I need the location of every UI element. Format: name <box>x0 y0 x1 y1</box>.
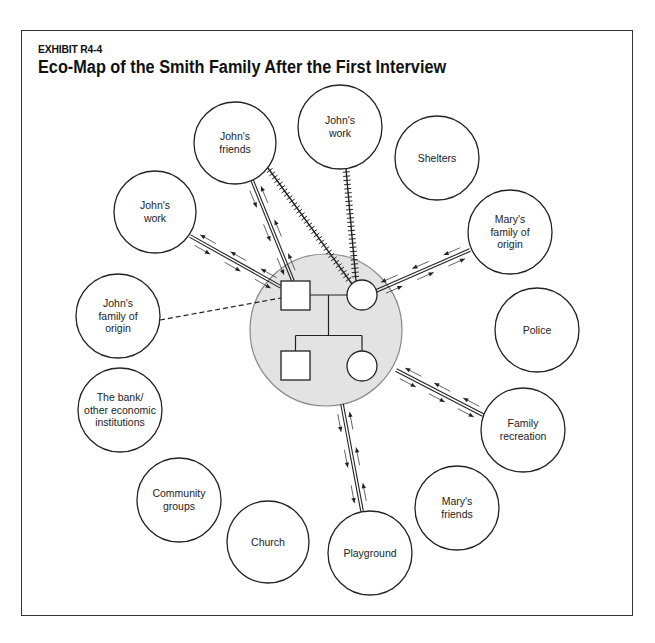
connection-johns-friends-to-father <box>250 180 295 282</box>
node-marys-family-of-origin: Mary'sfamily oforigin <box>468 190 552 274</box>
arrowhead-icon <box>261 269 266 273</box>
node-label: origin <box>497 238 523 250</box>
node-johns-work-left: John'swork <box>114 171 196 253</box>
node-family-recreation: Familyrecreation <box>481 388 565 472</box>
arrowhead-icon <box>355 448 359 453</box>
node-bank: The bank/other economicinstitutions <box>78 368 162 452</box>
arrowhead-icon <box>231 252 236 256</box>
node-label: other economic <box>84 404 156 416</box>
connection-family-recreation-to-household <box>395 368 483 417</box>
arrowhead-icon <box>200 235 205 239</box>
node-label: Shelters <box>418 152 457 164</box>
node-johns-family-of-origin: John'sfamily oforigin <box>76 274 160 358</box>
node-label: friends <box>219 143 251 155</box>
arrowhead-icon <box>348 412 352 417</box>
node-shelters: Shelters <box>395 116 479 200</box>
node-playground: Playground <box>328 511 412 595</box>
node-label: friends <box>441 508 473 520</box>
household-boundary <box>250 254 402 406</box>
node-label: work <box>143 212 167 224</box>
node-police: Police <box>495 288 579 372</box>
eco-map: John'sworkJohn'sfriendsSheltersJohn'swor… <box>0 0 655 643</box>
arrowhead-icon <box>338 426 342 431</box>
node-label: Community <box>152 487 206 499</box>
node-label: Playground <box>343 547 396 559</box>
arrowhead-icon <box>205 250 210 254</box>
node-label: groups <box>163 500 195 512</box>
node-label: The bank/ <box>97 391 144 403</box>
node-label: Police <box>523 324 552 336</box>
arrowhead-icon <box>351 498 355 503</box>
connection-johns-work-left-to-father <box>189 235 281 288</box>
node-label: recreation <box>500 430 547 442</box>
node-label: Church <box>251 536 285 548</box>
node-marys-friends: Mary'sfriends <box>415 466 499 550</box>
node-label: Mary's <box>442 495 473 507</box>
node-label: family of <box>98 310 137 322</box>
father-square-icon <box>281 281 310 310</box>
son-square-icon <box>281 351 310 380</box>
node-label: Family <box>508 417 540 429</box>
arrowhead-icon <box>235 267 240 271</box>
node-label: institutions <box>95 416 145 428</box>
household-circle <box>250 254 402 406</box>
node-johns-work-top: John'swork <box>298 85 382 169</box>
node-label: Mary's <box>495 213 526 225</box>
node-community-groups: Communitygroups <box>137 458 221 542</box>
connection-playground-to-household <box>338 404 366 511</box>
node-label: John's <box>220 130 250 142</box>
node-label: work <box>328 127 352 139</box>
node-label: John's <box>325 114 355 126</box>
node-label: John's <box>103 297 133 309</box>
node-johns-friends: John'sfriends <box>194 102 276 184</box>
daughter-circle-icon <box>347 351 377 381</box>
connection-marys-family-of-origin-to-mother <box>375 248 470 294</box>
node-label: John's <box>140 199 170 211</box>
node-label: origin <box>105 322 131 334</box>
node-label: family of <box>490 226 529 238</box>
mother-circle-icon <box>347 280 377 310</box>
node-church: Church <box>227 501 309 583</box>
arrowhead-icon <box>362 483 366 488</box>
arrowhead-icon <box>345 462 349 467</box>
